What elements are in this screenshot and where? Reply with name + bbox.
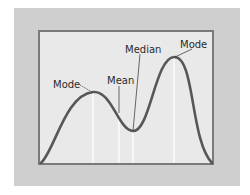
bimodal-distribution-figure: Mode Mean Median Mode	[0, 0, 250, 195]
mean-label: Mean	[107, 75, 134, 86]
mode-left-label: Mode	[53, 79, 80, 90]
median-label: Median	[125, 44, 161, 55]
mode-right-label: Mode	[180, 39, 207, 50]
